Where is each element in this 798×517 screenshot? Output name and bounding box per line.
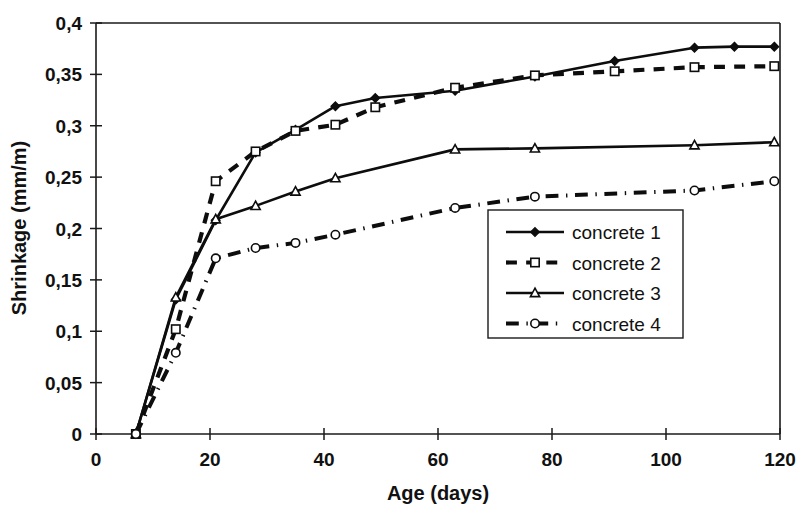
data-point xyxy=(531,71,539,79)
chart-container: 00,050,10,150,20,250,30,350,4 0204060801… xyxy=(0,0,798,517)
data-point xyxy=(291,127,299,135)
data-point xyxy=(531,192,539,200)
x-tick-label: 120 xyxy=(764,449,796,470)
data-point xyxy=(212,177,220,185)
legend-label: concrete 2 xyxy=(572,253,661,274)
data-point xyxy=(730,42,739,51)
x-tick-label: 80 xyxy=(541,449,562,470)
y-tick-label: 0,1 xyxy=(56,321,83,342)
data-point xyxy=(451,84,459,92)
y-tick-label: 0,3 xyxy=(56,116,82,137)
x-tick-label: 20 xyxy=(199,449,220,470)
data-point xyxy=(331,121,339,129)
data-point xyxy=(132,430,140,438)
y-tick-label: 0,4 xyxy=(56,13,83,34)
y-tick-label: 0,25 xyxy=(45,167,82,188)
x-tick-label: 100 xyxy=(650,449,682,470)
x-tick-label: 40 xyxy=(313,449,334,470)
data-point xyxy=(172,349,180,357)
data-point xyxy=(451,204,459,212)
data-point xyxy=(611,67,619,75)
data-point xyxy=(371,94,380,103)
data-point xyxy=(212,254,220,262)
data-point xyxy=(690,63,698,71)
data-point xyxy=(770,177,778,185)
data-point xyxy=(690,43,699,52)
y-tick-label: 0,2 xyxy=(56,219,82,240)
x-tick-label: 60 xyxy=(427,449,448,470)
data-point xyxy=(690,186,698,194)
legend-swatch-marker xyxy=(531,258,539,266)
y-axis-ticks: 00,050,10,150,20,250,30,350,4 xyxy=(45,13,102,445)
legend-label: concrete 4 xyxy=(572,314,661,335)
y-axis-title: Shrinkage (mm/m) xyxy=(8,141,30,315)
data-point xyxy=(251,244,259,252)
data-point xyxy=(291,239,299,247)
y-tick-label: 0,05 xyxy=(45,373,82,394)
data-point xyxy=(251,147,259,155)
data-point xyxy=(610,57,619,66)
legend-label: concrete 3 xyxy=(572,283,661,304)
x-tick-label: 0 xyxy=(91,449,102,470)
legend-swatch-marker xyxy=(531,319,539,327)
shrinkage-vs-age-chart: 00,050,10,150,20,250,30,350,4 0204060801… xyxy=(0,0,798,517)
x-axis-title: Age (days) xyxy=(387,482,489,504)
data-point xyxy=(371,103,379,111)
y-tick-label: 0 xyxy=(71,424,82,445)
data-point xyxy=(172,325,180,333)
legend-label: concrete 1 xyxy=(572,222,661,243)
chart-legend: concrete 1concrete 2concrete 3concrete 4 xyxy=(488,210,683,338)
data-point xyxy=(770,42,779,51)
data-point xyxy=(770,62,778,70)
y-tick-label: 0,15 xyxy=(45,270,82,291)
data-point xyxy=(331,230,339,238)
y-tick-label: 0,35 xyxy=(45,64,82,85)
